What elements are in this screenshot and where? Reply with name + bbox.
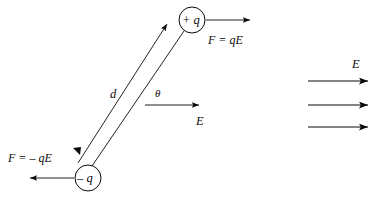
positive-force-label: F = qE (208, 34, 243, 46)
dipole-axis-line (92, 31, 184, 166)
positive-charge-label: + q (182, 14, 200, 27)
field-vector-label: E (196, 115, 204, 128)
negative-arrowhead-icon (73, 147, 81, 155)
negative-charge-label: – q (77, 172, 93, 185)
electric-dipole-figure: + q – q F = qE F = – qE d θ E E (0, 0, 385, 199)
separation-vector-arrow (78, 24, 167, 163)
separation-distance-label: d (110, 88, 116, 101)
uniform-field-label: E (352, 58, 360, 71)
angle-theta-label: θ (155, 88, 160, 99)
diagram-canvas (0, 0, 385, 199)
negative-force-label: F = – qE (8, 152, 52, 164)
uniform-field-lines (308, 81, 368, 127)
